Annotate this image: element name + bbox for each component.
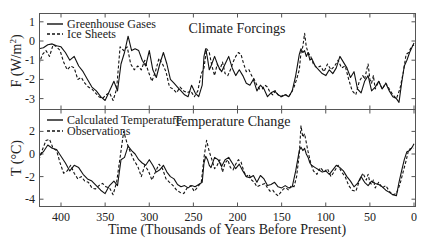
y-tick-label: -2 [25,72,35,86]
y-tick-label: -1 [25,53,35,67]
calculated-temperature-line [39,144,414,196]
climate-chart: 40035030025020015010050010-1-2-320-2-4 C… [0,0,427,239]
x-tick-label: 400 [52,210,70,224]
x-axis-label: Time (Thousands of Years Before Present) [108,222,347,238]
bottom-y-axis-label: T (°C) [9,140,25,176]
x-tick-label: 50 [364,210,376,224]
y-tick-label: 2 [29,124,35,138]
y-tick-label: -2 [25,170,35,184]
y-tick-label: 1 [29,15,35,29]
top-y-axis-label: F (W/m2) [8,34,25,87]
bottom-panel-title: Temperature Change [174,114,291,129]
legend-observations: Observations [67,124,131,138]
bottom-legend: Calculated Temperature Observations [47,113,182,138]
greenhouse-gases-line [39,36,414,102]
y-tick-label: -3 [25,92,35,106]
y-tick-label: -4 [25,192,35,206]
y-tick-label: 0 [29,147,35,161]
top-legend: Greenhouse Gases Ice Sheets [47,17,156,41]
y-tick-label: 0 [29,34,35,48]
legend-ice-sheets: Ice Sheets [67,27,116,41]
x-tick-label: 0 [411,210,417,224]
top-panel-title: Climate Forcings [189,21,286,36]
